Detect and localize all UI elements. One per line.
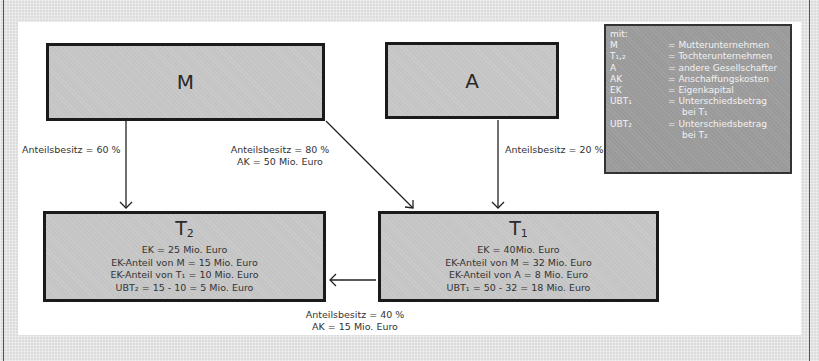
edge-label-m-t1: Anteilsbesitz = 80 % AK = 50 Mio. Euro (225, 144, 335, 168)
legend-box: mit: M= Mutterunternehmen T₁,₂= Tochteru… (604, 24, 792, 174)
legend-item-ubt2-cont: bei T₂ (610, 130, 786, 141)
edge-label-t1-t2-ak: AK = 15 Mio. Euro (300, 321, 410, 333)
arrow-m-to-t2 (120, 121, 132, 208)
edge-label-a-t1: Anteilsbesitz = 20 % (505, 144, 604, 156)
node-t2-ek: EK = 25 Mio. Euro (46, 244, 323, 257)
node-t2-title: T2 (46, 218, 323, 244)
edge-label-m-t1-share: Anteilsbesitz = 80 % (225, 144, 335, 156)
edge-label-m-t2: Anteilsbesitz = 60 % (22, 144, 121, 156)
edge-label-t1-t2: Anteilsbesitz = 40 % AK = 15 Mio. Euro (300, 309, 410, 333)
legend-item-a: A= andere Gesellschafter (610, 63, 786, 74)
arrow-a-to-t1 (492, 120, 504, 208)
legend-item-ubt2: UBT₂= Unterschiedsbetrag (610, 119, 786, 130)
legend-item-ek: EK= Eigenkapital (610, 85, 786, 96)
arrow-t1-to-t2 (330, 274, 376, 286)
legend-item-ak: AK= Anschaffungskosten (610, 74, 786, 85)
node-m: M (46, 43, 325, 121)
edge-label-m-t1-ak: AK = 50 Mio. Euro (225, 156, 335, 168)
node-a: A (385, 42, 559, 119)
legend-item-ubt1-cont: bei T₁ (610, 107, 786, 118)
legend-heading: mit: (610, 29, 786, 40)
legend-item-ubt1: UBT₁= Unterschiedsbetrag (610, 96, 786, 107)
node-m-label: M (49, 72, 322, 92)
node-t2-ek-anteil-m: EK-Anteil von M = 15 Mio. Euro (46, 257, 323, 270)
node-t2-ubt: UBT₂ = 15 - 10 = 5 Mio. Euro (46, 282, 323, 295)
node-t1-ubt: UBT₁ = 50 - 32 = 18 Mio. Euro (381, 282, 656, 295)
node-t1-ek: EK = 40Mio. Euro (381, 244, 656, 257)
node-t2-ek-anteil-t1: EK-Anteil von T₁ = 10 Mio. Euro (46, 269, 323, 282)
node-t2: T2 EK = 25 Mio. Euro EK-Anteil von M = 1… (43, 211, 326, 302)
node-t1-ek-anteil-m: EK-Anteil von M = 32 Mio. Euro (381, 257, 656, 270)
edge-label-t1-t2-share: Anteilsbesitz = 40 % (300, 309, 410, 321)
node-t1-ek-anteil-a: EK-Anteil von A = 8 Mio. Euro (381, 269, 656, 282)
node-t1: T1 EK = 40Mio. Euro EK-Anteil von M = 32… (378, 211, 659, 302)
arrow-m-to-t1 (326, 121, 413, 208)
legend-item-m: M= Mutterunternehmen (610, 40, 786, 51)
node-a-label: A (388, 71, 556, 91)
node-t1-title: T1 (381, 218, 656, 244)
legend-item-t: T₁,₂= Tochterunternehmen (610, 51, 786, 62)
